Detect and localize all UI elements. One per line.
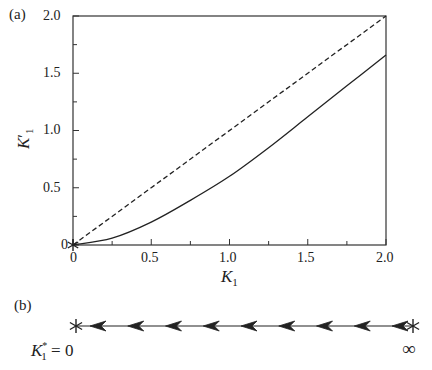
x-tick-2.0: 2.0 — [376, 250, 394, 266]
flow-left-fixed-point-label: K*1 = 0 — [31, 340, 73, 362]
x-tick-0.5: 0.5 — [141, 250, 159, 266]
x-tick-1.0: 1.0 — [219, 250, 237, 266]
y-axis-label: K′1 — [14, 128, 35, 149]
y-tick-1.0: 1.0 — [43, 122, 61, 138]
x-axis-label: K1 — [221, 267, 238, 288]
x-tick-0: 0 — [70, 250, 77, 266]
y-tick-0: 0 — [61, 237, 68, 253]
flow-right-fixed-point-label: ∞ — [402, 338, 416, 360]
y-tick-1.5: 1.5 — [43, 65, 61, 81]
panel-b-label: (b) — [14, 297, 32, 314]
recursion-curve — [73, 55, 386, 245]
x-tick-1.5: 1.5 — [297, 250, 315, 266]
y-tick-2.0: 2.0 — [43, 8, 61, 24]
chart-svg — [0, 0, 432, 370]
identity-line — [73, 16, 386, 245]
y-tick-0.5: 0.5 — [43, 180, 61, 196]
